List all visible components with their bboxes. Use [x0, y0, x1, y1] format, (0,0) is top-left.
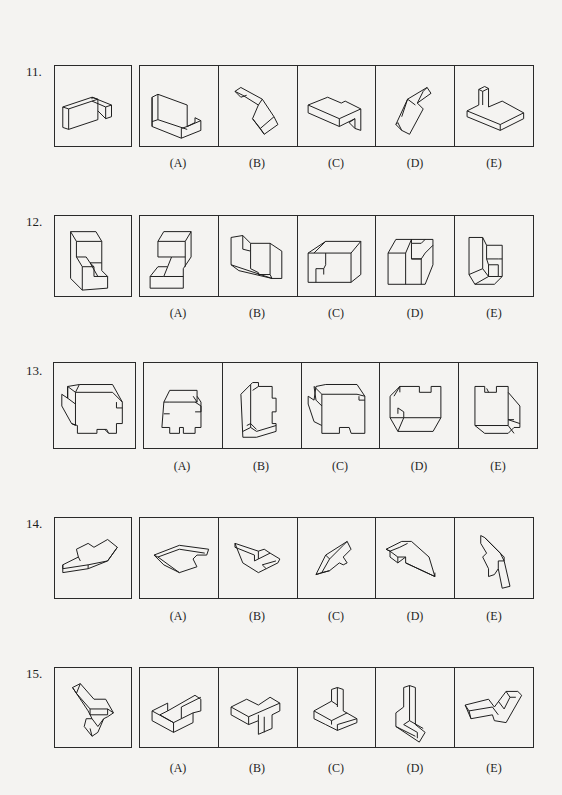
option-figure — [455, 668, 533, 747]
bent-l-block-with-triangle-figure — [55, 668, 131, 747]
options-strip — [143, 362, 538, 449]
option-label: (B) — [241, 459, 281, 474]
option-label: (E) — [474, 306, 514, 321]
option-a[interactable] — [140, 518, 218, 598]
option-label: (E) — [474, 609, 514, 624]
option-figure — [376, 66, 454, 146]
option-label: (C) — [316, 761, 356, 776]
option-figure — [219, 216, 297, 296]
flat-irregular-plate-figure — [55, 518, 131, 598]
option-a[interactable] — [144, 363, 222, 448]
option-b[interactable] — [218, 518, 297, 598]
option-label: (D) — [399, 459, 439, 474]
option-figure — [380, 363, 458, 448]
option-figure — [298, 668, 376, 747]
option-label: (E) — [474, 156, 514, 171]
option-b[interactable] — [218, 66, 297, 146]
option-d[interactable] — [375, 216, 454, 296]
option-figure — [376, 668, 454, 747]
option-label: (A) — [162, 459, 202, 474]
option-figure — [302, 363, 380, 448]
option-figure — [140, 66, 218, 146]
option-figure — [459, 363, 537, 448]
option-figure — [140, 518, 218, 598]
options-strip — [139, 215, 534, 297]
option-label: (A) — [158, 609, 198, 624]
option-figure — [455, 518, 533, 598]
option-c[interactable] — [297, 66, 376, 146]
option-label: (B) — [237, 761, 277, 776]
option-label: (B) — [237, 306, 277, 321]
problem-number: 15. — [26, 666, 42, 682]
problem-number: 14. — [26, 516, 42, 532]
option-e[interactable] — [454, 66, 533, 146]
option-figure — [219, 66, 297, 146]
option-figure — [140, 216, 218, 296]
option-e[interactable] — [458, 363, 537, 448]
option-label: (B) — [237, 609, 277, 624]
option-label: (D) — [395, 609, 435, 624]
option-label: (C) — [316, 156, 356, 171]
option-figure — [298, 216, 376, 296]
option-figure — [219, 518, 297, 598]
question-figure-box — [54, 517, 132, 599]
option-figure — [376, 216, 454, 296]
question-figure-box — [54, 65, 132, 147]
option-d[interactable] — [375, 66, 454, 146]
option-c[interactable] — [297, 216, 376, 296]
option-b[interactable] — [222, 363, 301, 448]
question-figure-box — [54, 667, 132, 748]
option-figure — [298, 66, 376, 146]
option-d[interactable] — [375, 518, 454, 598]
option-a[interactable] — [140, 216, 218, 296]
option-figure — [298, 518, 376, 598]
option-label: (B) — [237, 156, 277, 171]
option-label: (C) — [320, 459, 360, 474]
option-d[interactable] — [379, 363, 458, 448]
option-b[interactable] — [218, 668, 297, 747]
option-label: (D) — [395, 761, 435, 776]
option-figure — [223, 363, 301, 448]
option-label: (A) — [158, 156, 198, 171]
option-e[interactable] — [454, 668, 533, 747]
option-figure — [219, 668, 297, 747]
options-strip — [139, 667, 534, 748]
option-figure — [376, 518, 454, 598]
option-figure — [455, 66, 533, 146]
problem-number: 13. — [26, 363, 42, 379]
question-figure-box — [53, 362, 136, 449]
option-label: (C) — [316, 306, 356, 321]
question-figure-box — [54, 215, 132, 297]
problem-number: 11. — [26, 64, 42, 80]
notched-block-figure — [54, 363, 135, 448]
option-label: (E) — [474, 761, 514, 776]
option-label: (A) — [158, 761, 198, 776]
option-e[interactable] — [454, 518, 533, 598]
option-c[interactable] — [301, 363, 380, 448]
option-label: (D) — [395, 156, 435, 171]
options-strip — [139, 517, 534, 599]
option-figure — [455, 216, 533, 296]
option-label: (D) — [395, 306, 435, 321]
option-e[interactable] — [454, 216, 533, 296]
options-strip — [139, 65, 534, 147]
option-label: (C) — [316, 609, 356, 624]
option-d[interactable] — [375, 668, 454, 747]
option-figure — [144, 363, 222, 448]
option-c[interactable] — [297, 518, 376, 598]
option-a[interactable] — [140, 66, 218, 146]
option-c[interactable] — [297, 668, 376, 747]
option-figure — [140, 668, 218, 747]
option-a[interactable] — [140, 668, 218, 747]
problem-number: 12. — [26, 214, 42, 230]
stepped-cube-figure — [55, 216, 131, 296]
option-b[interactable] — [218, 216, 297, 296]
option-label: (E) — [478, 459, 518, 474]
l-shaped-block-figure — [55, 66, 131, 146]
option-label: (A) — [158, 306, 198, 321]
